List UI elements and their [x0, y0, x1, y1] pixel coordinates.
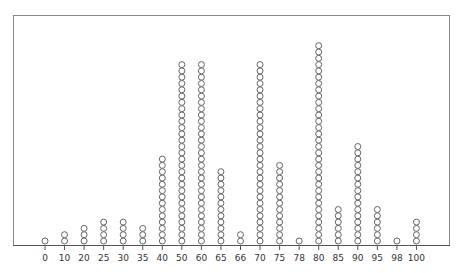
dot-marker — [198, 62, 204, 68]
dot-marker — [257, 156, 263, 162]
dot-marker — [355, 200, 361, 206]
dot-marker — [140, 232, 146, 238]
x-tick-label: 65 — [215, 253, 226, 263]
dot-marker — [198, 106, 204, 112]
x-tick-label: 20 — [78, 253, 90, 263]
plot-frame — [14, 16, 450, 246]
dot-column-40 — [159, 156, 165, 244]
dot-marker — [257, 112, 263, 118]
dot-column-95 — [374, 207, 380, 245]
dot-marker — [277, 181, 283, 187]
dot-marker — [159, 200, 165, 206]
dot-marker — [316, 68, 322, 74]
dot-marker — [198, 194, 204, 200]
dot-marker — [179, 131, 185, 137]
dot-marker — [218, 219, 224, 225]
dot-marker — [62, 238, 68, 244]
x-axis-ticks: 0102025303540506065667075788085909598100 — [42, 245, 425, 263]
dot-marker — [159, 219, 165, 225]
dot-marker — [101, 225, 107, 231]
dot-marker — [238, 238, 244, 244]
dot-marker — [198, 81, 204, 87]
dot-marker — [316, 175, 322, 181]
dot-marker — [277, 200, 283, 206]
dot-marker — [355, 225, 361, 231]
dot-marker — [179, 74, 185, 80]
dot-marker — [374, 219, 380, 225]
x-tick-label: 30 — [117, 253, 129, 263]
dot-marker — [198, 118, 204, 124]
dot-marker — [198, 156, 204, 162]
dot-marker — [198, 68, 204, 74]
dot-marker — [277, 225, 283, 231]
dot-column-66 — [238, 232, 244, 244]
dot-marker — [316, 150, 322, 156]
dot-column-30 — [120, 219, 126, 244]
dot-marker — [179, 225, 185, 231]
dot-marker — [159, 175, 165, 181]
dot-marker — [198, 144, 204, 150]
dot-marker — [316, 200, 322, 206]
dot-marker — [179, 125, 185, 131]
dot-marker — [316, 74, 322, 80]
x-tick-label: 40 — [157, 253, 169, 263]
dot-marker — [218, 207, 224, 213]
dot-marker — [374, 232, 380, 238]
dot-marker — [316, 81, 322, 87]
dot-column-35 — [140, 225, 146, 244]
dot-marker — [179, 68, 185, 74]
dot-marker — [257, 207, 263, 213]
dot-marker — [198, 207, 204, 213]
dot-marker — [316, 137, 322, 143]
dot-column-0 — [42, 238, 48, 244]
dot-marker — [257, 213, 263, 219]
dot-marker — [159, 181, 165, 187]
dot-marker — [257, 225, 263, 231]
dot-marker — [198, 225, 204, 231]
dot-marker — [355, 238, 361, 244]
dot-marker — [316, 43, 322, 49]
dot-marker — [316, 62, 322, 68]
dot-marker — [316, 112, 322, 118]
dot-marker — [257, 219, 263, 225]
dot-marker — [159, 156, 165, 162]
dot-marker — [198, 181, 204, 187]
dot-marker — [316, 144, 322, 150]
dot-marker — [316, 188, 322, 194]
dot-marker — [394, 238, 400, 244]
dot-marker — [413, 219, 419, 225]
dot-marker — [159, 162, 165, 168]
dot-marker — [159, 213, 165, 219]
x-tick-label: 75 — [274, 253, 285, 263]
x-tick-label: 90 — [352, 253, 364, 263]
dot-marker — [374, 207, 380, 213]
x-tick-label: 25 — [98, 253, 109, 263]
dot-marker — [81, 232, 87, 238]
dot-marker — [277, 213, 283, 219]
dot-marker — [179, 162, 185, 168]
dot-marker — [179, 181, 185, 187]
dot-marker — [179, 232, 185, 238]
dot-marker — [179, 137, 185, 143]
dot-marker — [257, 68, 263, 74]
dot-marker — [257, 99, 263, 105]
dot-column-80 — [316, 43, 322, 244]
dot-column-98 — [394, 238, 400, 244]
dot-marker — [277, 207, 283, 213]
dot-marker — [316, 162, 322, 168]
dot-marker — [355, 219, 361, 225]
dot-marker — [179, 213, 185, 219]
dot-marker — [316, 99, 322, 105]
dot-marker — [257, 118, 263, 124]
dot-marker — [159, 169, 165, 175]
dot-marker — [179, 93, 185, 99]
dot-marker — [316, 213, 322, 219]
dot-marker — [179, 207, 185, 213]
dot-columns — [42, 43, 419, 244]
dot-marker — [413, 232, 419, 238]
dot-marker — [159, 194, 165, 200]
dot-marker — [413, 225, 419, 231]
dot-marker — [198, 162, 204, 168]
dot-column-10 — [62, 232, 68, 244]
dot-marker — [257, 87, 263, 93]
